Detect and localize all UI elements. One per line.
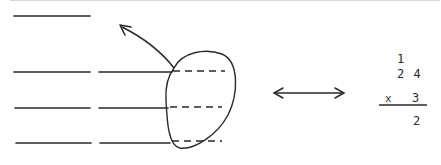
tens-grouping-drawing <box>0 0 441 165</box>
diagram-canvas: 1 2 4 x 3 2 <box>0 0 441 165</box>
double-arrow-icon <box>274 88 344 98</box>
curved-arrow <box>122 27 174 68</box>
times-operator: x <box>385 92 392 106</box>
partial-result: 2 <box>413 114 420 128</box>
multiplicand: 2 4 <box>397 67 422 81</box>
multiplier: 3 <box>412 91 419 105</box>
carry-digit: 1 <box>397 52 404 66</box>
grouping-loop <box>166 51 236 148</box>
curved-arrow-head-icon <box>120 25 131 35</box>
